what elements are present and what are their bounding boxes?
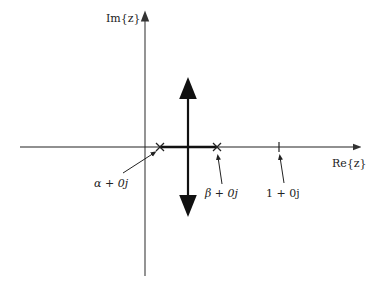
alpha-pointer: [123, 153, 154, 173]
unit-pointer: [280, 157, 284, 183]
imaginary-axis-label: Im{z}: [106, 12, 141, 25]
beta-pointer: [218, 157, 222, 184]
unit-label: 1 + 0j: [266, 187, 300, 200]
beta-label: β + 0j: [205, 187, 238, 200]
alpha-label: α + 0j: [94, 177, 128, 190]
root-locus-diagram: [0, 0, 375, 290]
real-axis-label: Re{z}: [332, 157, 367, 170]
